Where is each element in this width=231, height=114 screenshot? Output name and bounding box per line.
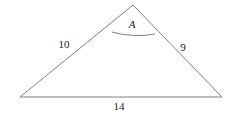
triangle-diagram-svg bbox=[0, 0, 231, 114]
side-length-label-base: 14 bbox=[114, 101, 125, 112]
angle-label-a: A bbox=[129, 19, 136, 30]
angle-arc-at-vertex-a bbox=[112, 32, 155, 36]
side-length-label-left: 10 bbox=[59, 39, 70, 50]
side-length-label-right: 9 bbox=[180, 42, 186, 53]
triangle-figure: A 10 9 14 bbox=[0, 0, 231, 114]
triangle-outline bbox=[20, 5, 222, 97]
